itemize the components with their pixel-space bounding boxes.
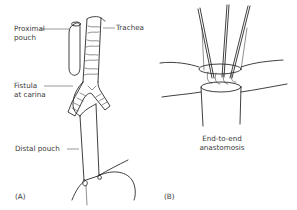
panel-b-end-to-end-anastomosis: End-to-end anastomosis (B) (150, 0, 297, 210)
caption-end-to-end-anastomosis: End-to-end anastomosis (192, 135, 252, 152)
label-proximal-pouch: Proximal pouch (14, 25, 45, 42)
label-fistula-at-carina: Fistula at carina (14, 82, 46, 99)
panel-a-tracheoesophageal-fistula: Proximal pouch Trachea Fistula at carina… (0, 0, 150, 210)
caption-line2: anastomosis (192, 144, 252, 153)
label-distal-pouch: Distal pouch (15, 145, 60, 154)
panel-a-tag: (A) (15, 193, 26, 202)
label-proximal-pouch-line2: pouch (14, 34, 45, 43)
label-fistula-line2: at carina (14, 91, 46, 100)
label-trachea: Trachea (116, 24, 144, 33)
anastomosis-illustration (150, 0, 297, 210)
panel-b-tag: (B) (164, 193, 175, 202)
